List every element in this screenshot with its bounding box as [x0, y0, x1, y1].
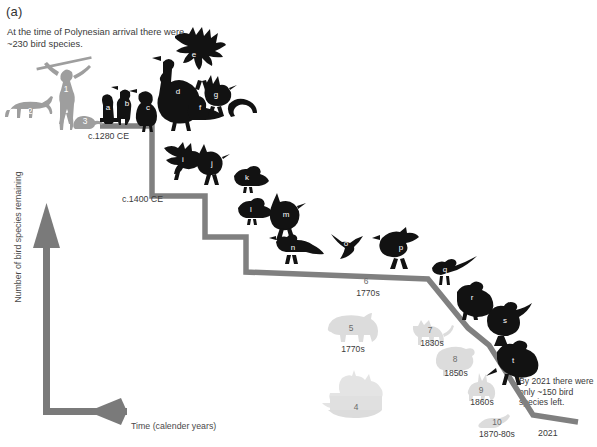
y-axis-arrowhead	[33, 203, 60, 248]
bird-label-q: q	[443, 265, 447, 274]
silhouette-bird-h: h	[228, 99, 257, 117]
silhouette-bird-q: q	[432, 256, 477, 285]
bird-label-j: j	[210, 159, 213, 168]
bird-label-o: o	[344, 239, 349, 248]
silhouette-bird-k: k	[234, 166, 269, 193]
silhouette-bird-p: p	[372, 227, 419, 269]
bird-label-s: s	[503, 316, 507, 325]
axis-group	[33, 203, 127, 425]
x-axis-label: Time (calender years)	[131, 421, 216, 431]
species-number-1: 1	[64, 84, 69, 94]
silhouette-bird-o: o	[331, 234, 363, 259]
species-number-4: 4	[354, 402, 359, 412]
bird-label-g: g	[214, 90, 218, 99]
date-label-8: 1850s	[436, 368, 476, 378]
bird-label-c: c	[146, 103, 150, 112]
species-number-7: 7	[428, 325, 433, 335]
era-label-1280: c.1280 CE	[88, 131, 129, 141]
y-axis-label: Number of bird species remaining	[13, 157, 23, 317]
species-number-6: 6	[364, 276, 369, 286]
silhouette-bird-a: a	[100, 94, 118, 124]
bird-label-i: i	[182, 155, 184, 164]
bird-label-r: r	[471, 293, 474, 302]
bird-label-a: a	[106, 103, 111, 112]
date-label-10: 1870-80s	[468, 429, 526, 439]
silhouette-bird-r: r	[457, 281, 493, 320]
bird-label-m: m	[283, 210, 290, 219]
marker-european-arrival-6: 6	[364, 276, 369, 286]
silhouette-pig-5: 5	[328, 313, 378, 342]
date-label-7: 1830s	[412, 338, 452, 348]
species-number-2: 2	[28, 106, 33, 116]
bird-label-h: h	[239, 103, 243, 112]
x-axis-arrowhead	[88, 398, 127, 425]
silhouette-rat-3: 3	[73, 116, 103, 129]
silhouette-bird-s: s	[487, 302, 532, 346]
era-label-1400: c.1400 CE	[122, 194, 163, 204]
bird-label-l: l	[250, 205, 252, 214]
bird-label-p: p	[399, 243, 404, 252]
bird-label-d: d	[176, 87, 180, 96]
date-label-9: 1860s	[462, 397, 502, 407]
silhouette-bird-l: l	[238, 198, 273, 225]
era-label-2021: 2021	[538, 428, 558, 438]
species-number-5: 5	[349, 323, 354, 333]
date-label-5: 1770s	[333, 344, 373, 354]
silhouette-ship-4: 4	[322, 370, 383, 418]
date-label-6: 1770s	[348, 288, 388, 298]
silhouette-bird-j: j	[197, 144, 230, 185]
bird-label-n: n	[291, 243, 295, 252]
silhouette-bird-i: i	[164, 142, 202, 180]
silhouette-stoat-10: 10	[478, 414, 510, 428]
figure-graphics: 1 2 3 a b c	[0, 0, 597, 447]
species-number-9: 9	[479, 385, 484, 395]
y-axis-shaft	[43, 240, 50, 415]
silhouette-dog-2: 2	[5, 96, 53, 118]
silhouette-bird-m: m	[270, 193, 306, 240]
species-number-3: 3	[83, 116, 88, 126]
bird-label-e: e	[192, 50, 197, 59]
species-number-8: 8	[453, 354, 458, 364]
species-number-10: 10	[492, 417, 502, 427]
bird-label-b: b	[125, 99, 130, 108]
figure-panel-a: (a) At the time of Polynesian arrival th…	[0, 0, 597, 447]
